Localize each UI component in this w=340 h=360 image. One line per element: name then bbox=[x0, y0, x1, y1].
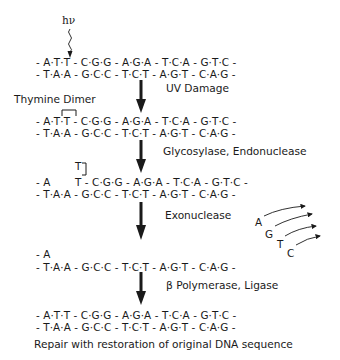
down-arrow-icon bbox=[136, 202, 146, 240]
down-arrow-icon bbox=[136, 80, 146, 113]
release-arrows bbox=[264, 206, 320, 245]
down-arrow-icon bbox=[136, 140, 146, 173]
diagram-graphics bbox=[0, 0, 340, 360]
dimer-bracket bbox=[62, 110, 76, 116]
photon-wave-arrow bbox=[68, 29, 73, 58]
down-arrow-icon bbox=[136, 272, 146, 305]
excision-bracket bbox=[82, 163, 86, 175]
